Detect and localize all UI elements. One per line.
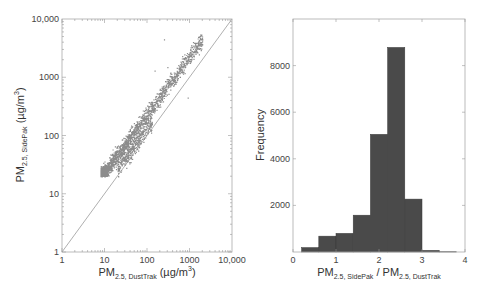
- x-tick-label: 4: [462, 255, 467, 265]
- y-tick-label: 6000: [270, 107, 290, 117]
- y-tick-label: 1: [54, 247, 59, 257]
- scatter-points: [100, 35, 203, 178]
- y-tick-label: 100: [44, 131, 59, 141]
- y-tick-label: 4000: [270, 154, 290, 164]
- y-tick-label: 2000: [270, 200, 290, 210]
- histogram-bar: [353, 215, 370, 252]
- x-tick-label: 10: [99, 255, 109, 265]
- x-tick-label: 1000: [179, 255, 199, 265]
- scatter-x-tick-labels: 110100100010,000: [59, 255, 245, 265]
- x-tick-label: 100: [139, 255, 154, 265]
- scatter-y-tick-labels: 110100100010,000: [31, 14, 59, 257]
- x-tick-label: 1: [59, 255, 64, 265]
- histogram-bar: [405, 199, 422, 252]
- y-tick-label: 8000: [270, 61, 290, 71]
- scatter-plot: 110100100010,000 110100100010,000 PM2.5,…: [13, 14, 246, 280]
- figure: 110100100010,000 110100100010,000 PM2.5,…: [0, 0, 482, 292]
- x-tick-label: 3: [419, 255, 424, 265]
- one-to-one-line: [62, 19, 232, 252]
- histogram: 01234 2000400060008000 PM2.5, SidePak / …: [254, 19, 468, 280]
- histogram-bar: [319, 236, 336, 252]
- y-tick-label: 10,000: [31, 14, 59, 24]
- histogram-bars: [302, 47, 457, 252]
- histogram-bar: [336, 233, 353, 252]
- y-tick-label: 10: [49, 189, 59, 199]
- histogram-y-tick-labels: 2000400060008000: [270, 61, 290, 211]
- histogram-x-tick-labels: 01234: [290, 255, 467, 265]
- scatter-y-axis-label: PM2.5, SidePak (µg/m3): [13, 87, 28, 182]
- histogram-x-axis-label: PM2.5, SidePak / PM2.5, DustTrak: [317, 266, 441, 280]
- x-tick-label: 10,000: [218, 255, 246, 265]
- histogram-bar: [388, 47, 405, 252]
- scatter-x-axis-label: PM2.5, DustTrak (µg/m3): [98, 265, 195, 280]
- histogram-y-axis-label: Frequency: [254, 109, 266, 161]
- x-tick-label: 1: [333, 255, 338, 265]
- x-tick-label: 0: [290, 255, 295, 265]
- y-tick-label: 1000: [39, 72, 59, 82]
- x-tick-label: 2: [376, 255, 381, 265]
- histogram-bar: [302, 248, 319, 252]
- histogram-bar: [370, 134, 387, 252]
